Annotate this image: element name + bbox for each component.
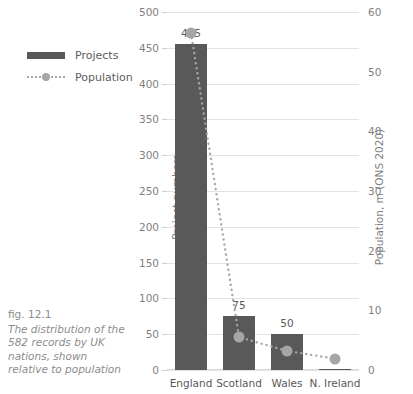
population-point-wales[interactable]: [282, 345, 293, 356]
y-tick-left-300: 300: [139, 149, 159, 161]
plot-area: 050100150200250300350400450500 010203040…: [167, 12, 359, 370]
population-point-n-ireland[interactable]: [330, 353, 341, 364]
figure-caption-text: The distribution of the 582 records by U…: [8, 323, 130, 377]
y-tick-left-400: 400: [139, 78, 159, 90]
y-tick-right-50: 50: [368, 66, 381, 78]
y-tick-right-30: 30: [368, 185, 381, 197]
y-tick-left-200: 200: [139, 221, 159, 233]
legend-label-projects: Projects: [67, 49, 118, 62]
y-tick-left-450: 450: [139, 42, 159, 54]
figure-number: fig. 12.1: [8, 308, 130, 322]
population-point-scotland[interactable]: [234, 332, 245, 343]
y-tick-right-60: 60: [368, 6, 381, 18]
y-tick-left-0: 0: [152, 364, 159, 376]
y-tick-left-150: 150: [139, 257, 159, 269]
legend-swatch-projects-icon: [27, 48, 67, 62]
y-tick-left-50: 50: [146, 328, 159, 340]
y-tick-right-20: 20: [368, 245, 381, 257]
gridline: [167, 370, 359, 371]
legend-label-population: Population: [67, 71, 133, 84]
x-label-wales: Wales: [272, 377, 303, 389]
legend-item-population: Population: [27, 66, 147, 88]
x-label-n-ireland: N. Ireland: [310, 377, 361, 389]
y-tick-left-350: 350: [139, 113, 159, 125]
x-label-scotland: Scotland: [216, 377, 262, 389]
y-tick-left-500: 500: [139, 6, 159, 18]
legend-swatch-population-icon: [27, 70, 67, 84]
y-tick-left-100: 100: [139, 292, 159, 304]
y-tick-right-10: 10: [368, 304, 381, 316]
figure-caption: fig. 12.1 The distribution of the 582 re…: [8, 308, 130, 377]
y-tick-left-250: 250: [139, 185, 159, 197]
population-point-england[interactable]: [186, 27, 197, 38]
y-tick-mark-left: [162, 370, 167, 371]
chart-legend: Projects Population: [27, 44, 147, 88]
y-tick-right-0: 0: [368, 364, 375, 376]
population-line-series: [167, 12, 359, 370]
legend-item-projects: Projects: [27, 44, 147, 66]
y-tick-right-40: 40: [368, 125, 381, 137]
chart-container: Project numbers Population, m (ONS 2020)…: [137, 0, 413, 394]
x-label-england: England: [170, 377, 213, 389]
